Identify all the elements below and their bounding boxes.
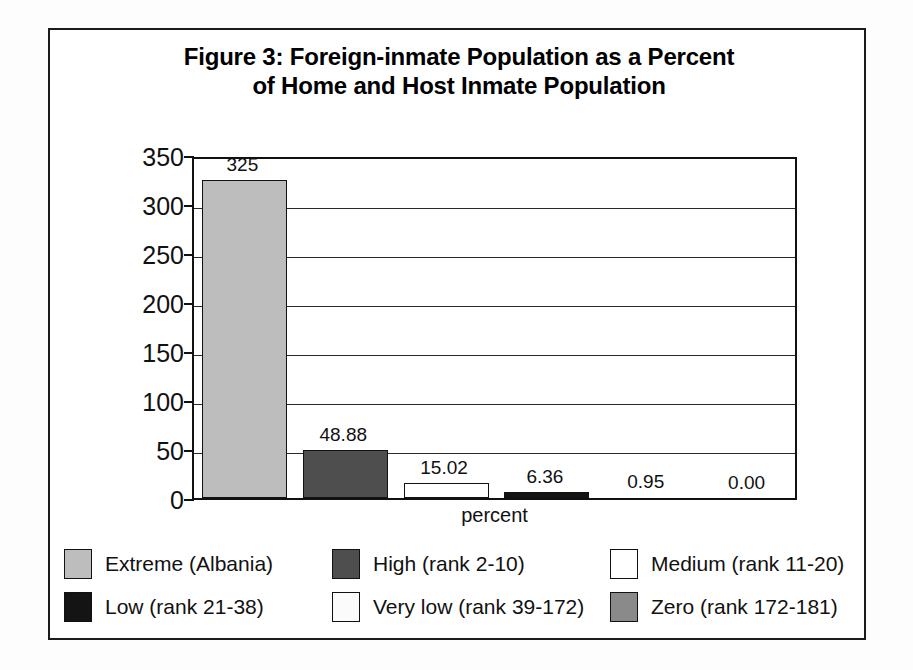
legend-swatch-icon — [64, 549, 92, 579]
legend-item: Low (rank 21-38) — [64, 592, 332, 622]
bar-2 — [303, 450, 388, 498]
y-axis-tick-label: 50 — [106, 439, 184, 464]
figure-frame: Figure 3: Foreign-inmate Population as a… — [48, 28, 866, 640]
bar-value-label-2: 48.88 — [283, 424, 404, 446]
legend-item: Extreme (Albania) — [64, 549, 332, 579]
legend-item: Very low (rank 39-172) — [332, 592, 610, 622]
y-axis-tick-label: 100 — [106, 390, 184, 415]
y-axis-tick-label: 250 — [106, 243, 184, 268]
y-axis-tick-label: 350 — [106, 145, 184, 170]
legend-label: Zero (rank 172-181) — [651, 595, 838, 619]
x-axis-label: percent — [192, 504, 797, 527]
legend-label: Low (rank 21-38) — [105, 595, 264, 619]
y-axis-tick-label: 0 — [106, 488, 184, 513]
bar-value-label-6: 0.00 — [686, 472, 807, 494]
y-axis-tick-label: 300 — [106, 194, 184, 219]
plot-area — [192, 157, 797, 500]
legend-label: High (rank 2-10) — [373, 552, 525, 576]
legend-row-1: Extreme (Albania)High (rank 2-10)Medium … — [64, 542, 854, 585]
legend-swatch-icon — [610, 549, 638, 579]
legend-swatch-icon — [610, 592, 638, 622]
legend-item: Zero (rank 172-181) — [610, 592, 854, 622]
legend-label: Medium (rank 11-20) — [651, 552, 844, 576]
legend-label: Extreme (Albania) — [105, 552, 273, 576]
legend-swatch-icon — [332, 592, 360, 622]
bar-series — [194, 159, 795, 498]
bar-1 — [202, 180, 287, 499]
legend-swatch-icon — [64, 592, 92, 622]
bar-4 — [504, 492, 589, 498]
legend-item: Medium (rank 11-20) — [610, 549, 854, 579]
y-axis: 350300250200150100500 — [96, 157, 184, 500]
legend-item: High (rank 2-10) — [332, 549, 610, 579]
legend-row-2: Low (rank 21-38)Very low (rank 39-172)Ze… — [64, 585, 854, 628]
legend-label: Very low (rank 39-172) — [373, 595, 584, 619]
chart-legend: Extreme (Albania)High (rank 2-10)Medium … — [64, 542, 854, 628]
bar-3 — [404, 483, 489, 498]
legend-swatch-icon — [332, 549, 360, 579]
y-axis-tick-label: 150 — [106, 341, 184, 366]
bar-value-label-1: 325 — [182, 154, 303, 176]
y-axis-tick-label: 200 — [106, 292, 184, 317]
